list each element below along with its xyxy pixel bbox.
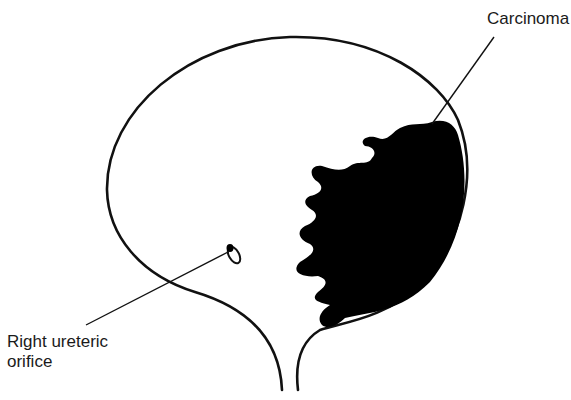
label-right-ureteric-orifice: Right ureteric orifice [7, 332, 108, 372]
ureteric-orifice-dark [227, 244, 234, 252]
orifice-leader-line [86, 251, 230, 325]
label-orifice-line-2: orifice [7, 352, 108, 372]
carcinoma-mass [296, 121, 464, 327]
carcinoma-leader-line [432, 37, 494, 124]
label-orifice-line-1: Right ureteric [7, 332, 108, 352]
label-carcinoma: Carcinoma [487, 9, 569, 29]
